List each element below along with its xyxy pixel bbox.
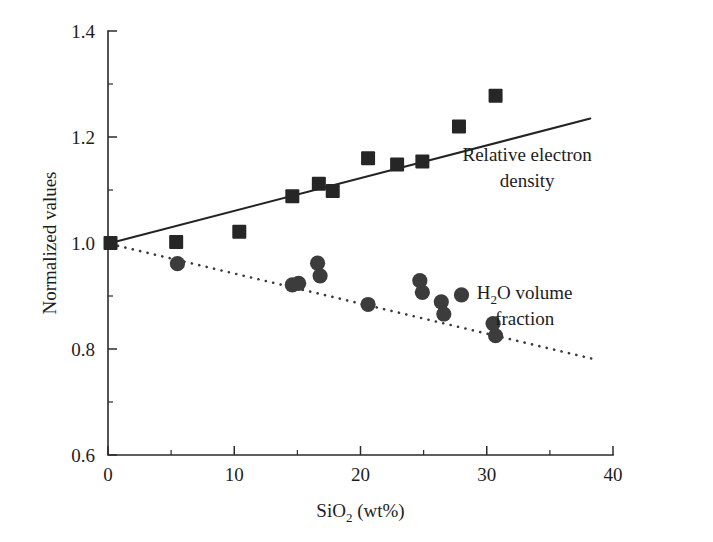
- data-point-circle: [360, 297, 375, 312]
- y-tick-label: 1.0: [71, 233, 95, 254]
- scatter-plot-svg: 0.60.81.01.21.4010203040 Relative electr…: [0, 0, 713, 542]
- x-tick-label: 30: [477, 464, 496, 485]
- data-point-circle: [313, 268, 328, 283]
- x-tick-label: 20: [351, 464, 370, 485]
- data-point-square: [415, 154, 429, 168]
- x-tick-label: 0: [103, 464, 113, 485]
- data-point-square: [326, 184, 340, 198]
- data-point-circle: [415, 285, 430, 300]
- series-annotation-line: fraction: [495, 308, 555, 329]
- y-tick-label: 0.8: [71, 339, 95, 360]
- data-point-square: [489, 89, 503, 103]
- data-point-circle: [436, 306, 451, 321]
- plot-background: [0, 0, 713, 542]
- data-point-square: [361, 151, 375, 165]
- data-point-circle: [454, 287, 469, 302]
- data-point-square: [104, 236, 118, 250]
- data-point-circle: [488, 328, 503, 343]
- data-point-square: [312, 177, 326, 191]
- series-annotation-line: Relative electron: [463, 144, 593, 165]
- data-point-square: [285, 189, 299, 203]
- y-tick-label: 1.4: [71, 21, 95, 42]
- data-point-square: [452, 119, 466, 133]
- y-tick-label: 0.6: [71, 445, 95, 466]
- data-point-circle: [291, 276, 306, 291]
- y-axis-title: Normalized values: [39, 172, 60, 315]
- x-tick-label: 40: [604, 464, 623, 485]
- x-tick-label: 10: [225, 464, 244, 485]
- chart-figure: 0.60.81.01.21.4010203040 Relative electr…: [0, 0, 713, 542]
- data-point-circle: [310, 256, 325, 271]
- data-point-circle: [170, 256, 185, 271]
- series-annotation-line: density: [500, 170, 555, 191]
- data-point-square: [169, 235, 183, 249]
- data-point-square: [232, 225, 246, 239]
- y-tick-label: 1.2: [71, 127, 95, 148]
- data-point-square: [390, 158, 404, 172]
